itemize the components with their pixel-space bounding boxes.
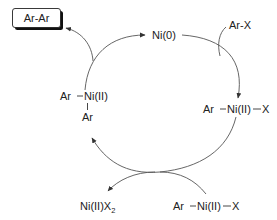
svg-text:Ar: Ar — [82, 111, 93, 123]
arrow-to-product — [66, 28, 93, 61]
arc-oxidative-addition — [182, 35, 239, 98]
product-box: Ar-Ar — [13, 9, 64, 31]
catalytic-cycle-diagram: Ar-Ar Ni(0) Ar-X Ar Ni(II) X Ar Ni(II) A… — [0, 0, 277, 220]
svg-text:Ar: Ar — [203, 103, 214, 115]
arx-label: Ar-X — [229, 19, 252, 31]
svg-text:Ni(II)X2: Ni(II)X2 — [80, 200, 115, 215]
svg-text:X: X — [262, 103, 270, 115]
svg-text:Ni(II): Ni(II) — [197, 200, 221, 212]
svg-text:Ar: Ar — [60, 90, 71, 102]
ni0-label: Ni(0) — [152, 29, 176, 41]
arc-transmetalation — [92, 117, 236, 172]
arc-reductive-elimination — [85, 35, 145, 90]
byproduct-label: Ni(II)X2 — [80, 200, 115, 215]
svg-text:Ar: Ar — [173, 200, 184, 212]
second-arnix-complex: Ar Ni(II) X — [173, 200, 240, 212]
svg-text:X: X — [232, 200, 240, 212]
arx-incoming-line — [219, 27, 226, 56]
oxidative-addition-complex: Ar Ni(II) X — [203, 103, 270, 115]
diaryl-complex: Ar Ni(II) Ar — [60, 90, 108, 123]
product-label: Ar-Ar — [24, 12, 50, 24]
svg-text:Ni(II): Ni(II) — [227, 103, 251, 115]
svg-text:Ni(II): Ni(II) — [84, 90, 108, 102]
second-arnix-incoming-line — [160, 172, 206, 194]
arrow-to-byproduct — [108, 172, 155, 191]
